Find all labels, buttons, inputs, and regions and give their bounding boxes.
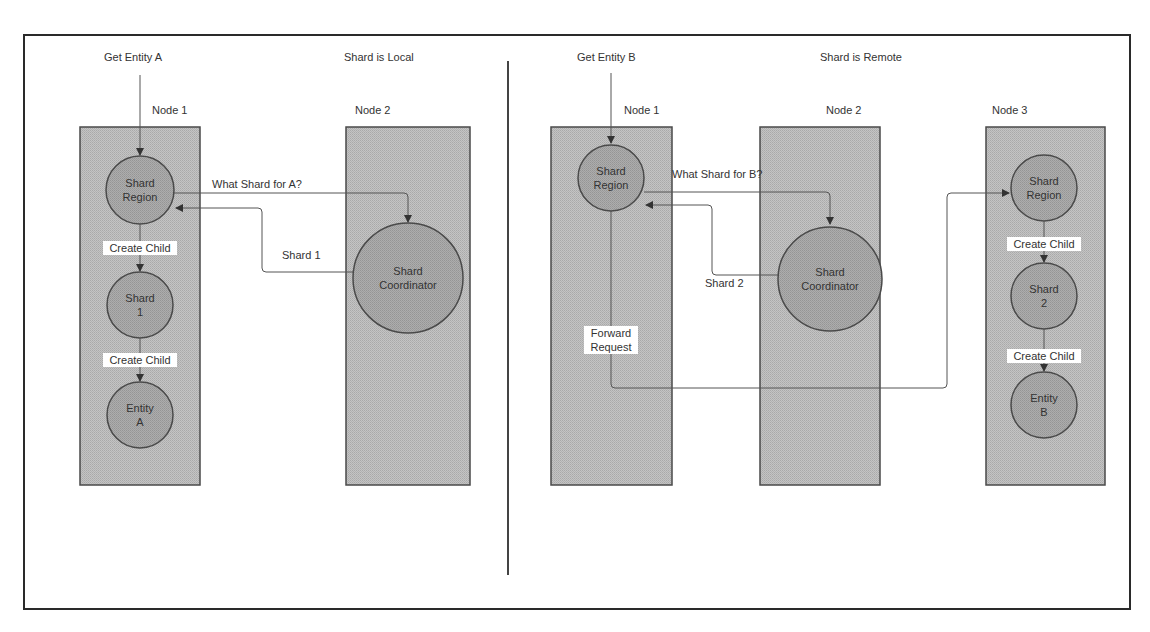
create-child-label: Create Child xyxy=(1013,238,1074,250)
svg-text:Shard: Shard xyxy=(125,292,154,304)
scenario-label-local: Shard is Local xyxy=(344,51,414,63)
svg-text:Shard: Shard xyxy=(596,165,625,177)
scenario-label-remote: Shard is Remote xyxy=(820,51,902,63)
entity-actor: Entity B xyxy=(1011,372,1077,438)
svg-text:1: 1 xyxy=(137,306,143,318)
shard-region-actor-node3: Shard Region xyxy=(1011,155,1077,221)
shard-coordinator-actor: Shard Coordinator xyxy=(778,227,882,331)
svg-text:Region: Region xyxy=(1027,189,1062,201)
svg-text:Region: Region xyxy=(123,191,158,203)
entity-actor: Entity A xyxy=(107,382,173,448)
svg-text:Shard: Shard xyxy=(1029,175,1058,187)
svg-text:Coordinator: Coordinator xyxy=(379,279,437,291)
svg-text:Entity: Entity xyxy=(1030,392,1058,404)
node-label: Node 1 xyxy=(624,104,659,116)
query-label: What Shard for B? xyxy=(672,168,763,180)
sharding-diagram: Get Entity A Shard is Local Node 1 Node … xyxy=(0,0,1150,632)
node-label: Node 2 xyxy=(826,104,861,116)
node-label: Node 3 xyxy=(992,104,1027,116)
request-label-b: Get Entity B xyxy=(577,51,636,63)
shard-actor: Shard 2 xyxy=(1011,263,1077,329)
create-child-label: Create Child xyxy=(109,242,170,254)
node-label: Node 1 xyxy=(152,104,187,116)
reply-arrow xyxy=(176,208,354,272)
scenario-local: Get Entity A Shard is Local Node 1 Node … xyxy=(80,51,470,485)
shard-region-actor: Shard Region xyxy=(106,156,174,224)
node-label: Node 2 xyxy=(355,104,390,116)
svg-text:Shard: Shard xyxy=(125,177,154,189)
svg-text:Shard: Shard xyxy=(815,266,844,278)
request-label-a: Get Entity A xyxy=(104,51,163,63)
shard-coordinator-actor: Shard Coordinator xyxy=(353,223,463,333)
svg-text:Shard: Shard xyxy=(1029,283,1058,295)
shard-region-actor-node1: Shard Region xyxy=(578,145,644,211)
svg-text:Coordinator: Coordinator xyxy=(801,280,859,292)
svg-text:Entity: Entity xyxy=(126,402,154,414)
svg-text:2: 2 xyxy=(1041,297,1047,309)
create-child-label: Create Child xyxy=(1013,350,1074,362)
scenario-remote: Get Entity B Shard is Remote Node 1 Node… xyxy=(551,51,1105,485)
reply-label: Shard 1 xyxy=(282,249,321,261)
reply-label: Shard 2 xyxy=(705,277,744,289)
create-child-label: Create Child xyxy=(109,354,170,366)
shard-actor: Shard 1 xyxy=(107,272,173,338)
query-label: What Shard for A? xyxy=(212,178,302,190)
svg-text:A: A xyxy=(136,416,144,428)
svg-text:Region: Region xyxy=(594,179,629,191)
forward-label: Forward xyxy=(591,327,631,339)
svg-text:B: B xyxy=(1040,406,1047,418)
svg-text:Shard: Shard xyxy=(393,265,422,277)
forward-label: Request xyxy=(591,341,632,353)
